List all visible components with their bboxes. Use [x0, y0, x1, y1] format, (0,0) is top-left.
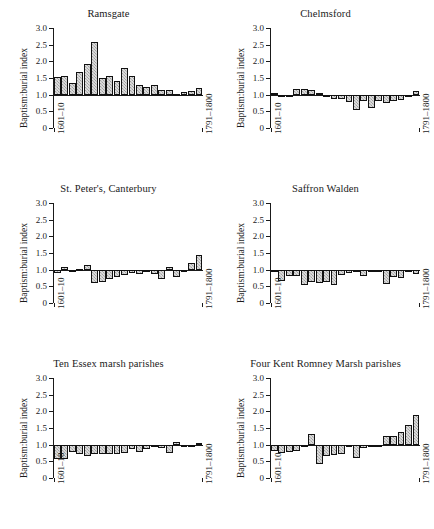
bar-series — [54, 203, 203, 303]
bar — [293, 89, 300, 95]
y-axis-tick — [49, 461, 53, 462]
bar — [166, 445, 173, 454]
bar — [84, 445, 91, 457]
x-axis-tick — [54, 478, 55, 482]
y-axis-tick — [266, 203, 270, 204]
bar — [129, 270, 136, 273]
y-axis-tick — [266, 236, 270, 237]
bar — [91, 42, 98, 95]
y-axis-tick-label: 0 — [43, 124, 48, 133]
y-axis-tick-label: 0 — [260, 474, 265, 483]
y-axis-tick-label: 3.0 — [253, 24, 264, 33]
y-axis-tick — [49, 411, 53, 412]
y-axis-title: Baptism:burial index — [236, 48, 246, 128]
bar-series — [271, 203, 420, 303]
bar — [316, 93, 323, 95]
bar — [286, 95, 293, 97]
x-axis-tick — [419, 478, 420, 482]
x-axis-tick — [54, 303, 55, 307]
bar — [188, 263, 195, 270]
y-axis-tick — [266, 220, 270, 221]
bar — [173, 94, 180, 96]
bar — [346, 270, 353, 273]
bar — [99, 445, 106, 454]
y-axis-tick — [266, 478, 270, 479]
bar — [99, 270, 106, 282]
y-axis-tick — [49, 128, 53, 129]
bar — [271, 445, 278, 452]
y-axis-tick-label: 3.0 — [253, 374, 264, 383]
y-axis-tick — [266, 378, 270, 379]
y-axis-tick — [266, 28, 270, 29]
bar — [151, 445, 158, 448]
y-axis-tick — [49, 395, 53, 396]
bar — [375, 445, 382, 447]
bar — [346, 445, 353, 447]
bar — [76, 445, 83, 454]
x-axis-tick — [419, 128, 420, 132]
bar — [301, 445, 308, 447]
bar — [54, 77, 61, 95]
x-axis-label: 1601–10 — [56, 103, 66, 135]
y-axis-tick-label: 3.0 — [253, 199, 264, 208]
bar — [114, 445, 121, 455]
bar — [143, 445, 150, 449]
chart-panel: Saffron WaldenBaptism:burial index00.51.… — [217, 175, 434, 351]
y-axis-tick — [49, 428, 53, 429]
y-axis-tick-label: 0.5 — [36, 282, 47, 291]
x-axis-label: 1601–10 — [273, 103, 283, 135]
x-axis-tick — [271, 478, 272, 482]
bar — [61, 267, 68, 269]
y-axis-tick-label: 2.0 — [253, 407, 264, 416]
bar — [151, 85, 158, 95]
x-axis-label: 1791–1800 — [421, 94, 431, 135]
bar — [106, 270, 113, 279]
bar — [61, 76, 68, 95]
y-axis-tick-label: 1.5 — [253, 74, 264, 83]
plot-area: Baptism:burial index00.51.01.52.02.53.0 — [53, 28, 203, 128]
bar — [390, 95, 397, 101]
bar — [323, 445, 330, 456]
bar — [368, 270, 375, 272]
bar — [331, 270, 338, 285]
x-axis-label: 1601–10 — [273, 453, 283, 485]
bar — [405, 270, 412, 272]
y-axis-tick-label: 3.0 — [36, 199, 47, 208]
y-axis-tick-label: 0 — [43, 474, 48, 483]
bar — [69, 445, 76, 452]
bar — [360, 445, 367, 448]
y-axis-tick — [266, 253, 270, 254]
bar — [91, 270, 98, 283]
bar — [106, 445, 113, 454]
bar-series — [54, 28, 203, 128]
bar — [308, 270, 315, 283]
bar — [54, 270, 61, 274]
bar — [360, 95, 367, 102]
y-axis-tick-label: 2.0 — [253, 232, 264, 241]
x-axis-tick — [202, 478, 203, 482]
y-axis-tick — [266, 395, 270, 396]
x-axis-tick — [54, 128, 55, 132]
y-axis-tick-label: 2.0 — [36, 407, 47, 416]
bar — [353, 445, 360, 458]
plot-area: Baptism:burial index00.51.01.52.02.53.0 — [270, 28, 420, 128]
y-axis-title: Baptism:burial index — [19, 48, 29, 128]
chart-panel: RamsgateBaptism:burial index00.51.01.52.… — [0, 0, 217, 176]
x-axis-label: 1791–1800 — [421, 444, 431, 485]
bar — [375, 270, 382, 272]
y-axis-tick — [266, 45, 270, 46]
plot-area: Baptism:burial index00.51.01.52.02.53.0 — [270, 378, 420, 478]
y-axis-tick — [266, 303, 270, 304]
bar — [151, 270, 158, 275]
y-axis-tick-label: 1.5 — [253, 249, 264, 258]
y-axis-tick-label: 2.0 — [36, 57, 47, 66]
y-axis-tick — [49, 220, 53, 221]
bar — [338, 445, 345, 454]
bar — [173, 442, 180, 444]
y-axis-tick-label: 0 — [260, 124, 265, 133]
bar — [188, 91, 195, 95]
y-axis-tick-label: 2.5 — [253, 215, 264, 224]
y-axis-tick — [266, 61, 270, 62]
x-axis-tick — [419, 303, 420, 307]
y-axis-title: Baptism:burial index — [19, 223, 29, 303]
